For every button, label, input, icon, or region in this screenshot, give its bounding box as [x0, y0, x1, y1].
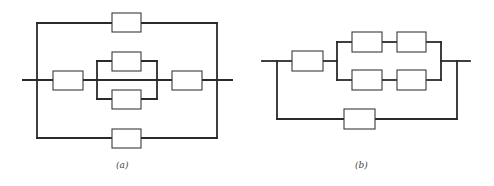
block-upper-1	[352, 32, 382, 52]
block-left	[53, 71, 83, 90]
block-bottom	[344, 109, 375, 129]
diagram-b	[262, 32, 470, 129]
block-upper-2	[397, 32, 426, 52]
diagram-a	[23, 13, 232, 148]
block-right	[172, 71, 202, 90]
block-left	[292, 51, 323, 71]
caption-b: (b)	[355, 160, 368, 170]
block-lower-2	[397, 70, 426, 90]
block-lower-1	[352, 70, 382, 90]
reliability-diagrams	[0, 0, 494, 186]
caption-a: (a)	[116, 160, 128, 170]
block-bottom	[112, 129, 141, 148]
block-middle-lower	[112, 90, 141, 109]
block-middle-upper	[112, 52, 141, 71]
block-top	[112, 13, 141, 32]
